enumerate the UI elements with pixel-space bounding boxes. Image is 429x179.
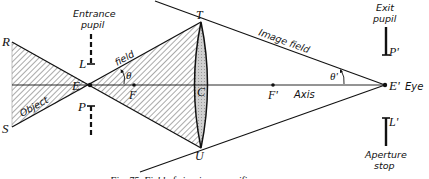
label-aperture: Aperture bbox=[364, 149, 407, 160]
label-P-prime: P' bbox=[388, 45, 399, 59]
label-L-prime: L' bbox=[388, 115, 399, 129]
label-theta: θ bbox=[126, 69, 132, 81]
label-aperture-stop: stop bbox=[374, 160, 395, 171]
label-R: R bbox=[1, 34, 10, 49]
figure-caption: Fig. 75. Field of view in a magnifier bbox=[109, 175, 255, 179]
point-E-prime bbox=[383, 83, 387, 87]
label-E-prime: E' bbox=[388, 78, 400, 93]
label-entrance-pupil: pupil bbox=[80, 19, 105, 30]
label-theta-prime: θ' bbox=[330, 70, 338, 82]
label-S: S bbox=[2, 121, 9, 136]
label-E: E bbox=[71, 78, 80, 93]
label-exit-pupil: pupil bbox=[372, 13, 397, 24]
label-U: U bbox=[195, 149, 205, 163]
point-F bbox=[132, 83, 136, 87]
label-P: P bbox=[77, 99, 86, 114]
label-F-prime: F' bbox=[267, 88, 278, 102]
label-exit: Exit bbox=[376, 2, 395, 13]
diagram-canvas: R S E F T U C F' E' L P P' L' θ θ' Entra… bbox=[0, 0, 429, 179]
label-C: C bbox=[197, 85, 206, 99]
optics-diagram: R S E F T U C F' E' L P P' L' θ θ' Entra… bbox=[0, 0, 429, 179]
point-F-prime bbox=[271, 83, 275, 87]
label-T: T bbox=[196, 8, 204, 22]
label-axis: Axis bbox=[293, 89, 315, 100]
label-F: F bbox=[128, 88, 137, 102]
label-L: L bbox=[78, 56, 86, 71]
label-entrance: Entrance bbox=[73, 8, 116, 19]
label-eye: Eye bbox=[405, 81, 423, 92]
point-E bbox=[88, 83, 92, 87]
